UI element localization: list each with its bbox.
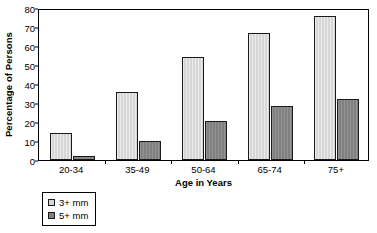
x-axis-tick-labels: 20-3435-4950-6465-7475+ [38,164,369,177]
bar-group [238,10,304,160]
chart-legend: 3+ mm5+ mm [42,192,96,226]
x-tick-label: 65-74 [258,164,282,175]
legend-item: 3+ mm [48,196,88,209]
legend-label: 3+ mm [59,197,88,208]
bar-group [171,10,237,160]
bar-group [39,10,105,160]
legend-item: 5+ mm [48,209,88,222]
y-tick-label: 20 [24,118,35,129]
bar [314,16,336,160]
bar [205,121,227,160]
x-tick-label: 20-34 [59,164,83,175]
y-tick-label: 60 [24,42,35,53]
bar-chart: Percentage of Persons 01020304050607080 … [0,0,377,233]
y-tick-label: 80 [24,4,35,15]
bar [50,133,72,160]
plot-inner [39,10,368,160]
x-tick-label: 75+ [328,164,344,175]
x-tick-label: 50-64 [191,164,215,175]
bar [73,156,95,160]
bar [337,99,359,160]
y-tick-label: 30 [24,99,35,110]
bar-group [304,10,370,160]
legend-label: 5+ mm [59,210,88,221]
x-axis-title: Age in Years [38,177,369,188]
bar [248,33,270,160]
bar [182,57,204,160]
x-tick-label: 35-49 [125,164,149,175]
y-axis-title-text: Percentage of Persons [3,32,14,137]
bar [116,92,138,160]
y-axis-tick-labels: 01020304050607080 [16,9,38,161]
y-tick-label: 10 [24,137,35,148]
bar-group [105,10,171,160]
legend-swatch-icon [48,199,55,206]
legend-swatch-icon [48,212,55,219]
bar [139,141,161,160]
bar [271,106,293,160]
y-tick-label: 70 [24,23,35,34]
y-tick-label: 50 [24,61,35,72]
y-axis-title: Percentage of Persons [0,0,16,170]
plot-area [38,9,369,161]
y-tick-label: 40 [24,80,35,91]
